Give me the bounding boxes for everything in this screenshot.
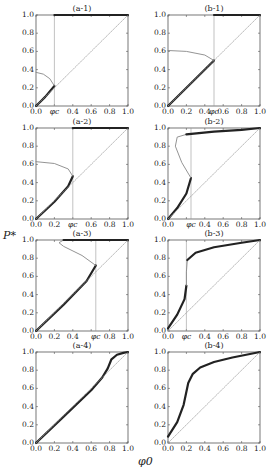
series-diagonal <box>36 15 128 106</box>
y-tick-label: 0.4 <box>150 403 166 411</box>
x-tick-label: 0.0 <box>28 333 44 341</box>
plot-area <box>36 240 128 331</box>
chart-panel-a-1: (a-1)0.00.20.40.60.81.00.0φc0.40.60.81.0 <box>36 15 128 106</box>
x-tick-label: φc <box>46 108 62 116</box>
y-tick-label: 0.6 <box>150 384 166 392</box>
y-tick-label: 1.0 <box>18 124 34 132</box>
series-stable-lower <box>36 86 54 106</box>
chart-panel-a-2: (a-2)0.00.20.40.60.81.00.00.2φc0.60.81.0 <box>36 128 128 219</box>
y-tick-label: 1.0 <box>18 348 34 356</box>
series-diagonal <box>168 128 260 219</box>
x-tick-label: 1.0 <box>252 333 268 341</box>
y-tick-label: 0.4 <box>150 179 166 187</box>
x-tick-label: 1.0 <box>120 445 136 453</box>
panel-title: (b-4) <box>168 341 260 351</box>
x-tick-label: 0.4 <box>65 445 81 453</box>
plot-area <box>168 352 260 443</box>
y-tick-label: 0.2 <box>18 84 34 92</box>
x-tick-label: 1.0 <box>252 108 268 116</box>
y-tick-label: 1.0 <box>150 11 166 19</box>
x-tick-label: 0.4 <box>197 221 213 229</box>
x-tick-label: 0.8 <box>234 333 250 341</box>
y-tick-label: 0.2 <box>18 309 34 317</box>
x-tick-label: 0.0 <box>28 108 44 116</box>
chart-panel-b-1: (b-1)0.00.20.40.60.81.00.00.20.4φc0.60.8… <box>168 15 260 106</box>
y-tick-label: 1.0 <box>18 11 34 19</box>
y-tick-label: 0.8 <box>150 254 166 262</box>
plot-area <box>168 128 260 219</box>
chart-panel-b-2: (b-2)0.00.20.40.60.81.00.0φc0.40.60.81.0 <box>168 128 260 219</box>
y-tick-label: 0.8 <box>18 254 34 262</box>
panel-title: (a-3) <box>36 229 128 239</box>
series-unstable <box>36 162 73 177</box>
y-tick-label: 0.2 <box>150 84 166 92</box>
panel-title: (a-4) <box>36 341 128 351</box>
plot-area <box>36 15 128 106</box>
x-tick-label: 0.8 <box>234 221 250 229</box>
series-diagonal <box>168 352 260 443</box>
chart-panel-a-4: (a-4)0.00.20.40.60.81.00.00.20.40.60.81.… <box>36 352 128 443</box>
series-stable-lower <box>36 265 96 331</box>
x-tick-label: 0.2 <box>46 221 62 229</box>
x-tick-label: 0.0 <box>160 221 176 229</box>
y-tick-label: 0.8 <box>150 142 166 150</box>
series-unstable <box>175 134 191 178</box>
plot-area <box>168 240 260 331</box>
x-tick-label: 0.4 <box>197 445 213 453</box>
y-tick-label: 0.4 <box>150 291 166 299</box>
x-tick-label: 0.8 <box>234 108 250 116</box>
plot-area <box>36 352 128 443</box>
x-tick-label: φc <box>178 333 194 341</box>
x-tick-label: 0.6 <box>83 445 99 453</box>
series-diagonal <box>36 128 128 219</box>
y-tick-label: 0.4 <box>150 66 166 74</box>
y-tick-label: 0.4 <box>18 66 34 74</box>
y-tick-label: 0.8 <box>150 366 166 374</box>
y-tick-label: 1.0 <box>150 236 166 244</box>
x-tick-label: 1.0 <box>252 445 268 453</box>
y-tick-label: 0.4 <box>18 179 34 187</box>
y-tick-label: 0.8 <box>18 142 34 150</box>
series-unstable <box>59 240 96 265</box>
y-tick-label: 1.0 <box>18 236 34 244</box>
x-tick-label: 0.0 <box>160 445 176 453</box>
y-tick-label: 0.8 <box>18 366 34 374</box>
x-tick-label: 0.6 <box>215 108 231 116</box>
y-tick-label: 0.6 <box>18 384 34 392</box>
y-tick-label: 0.2 <box>150 421 166 429</box>
x-tick-label: 0.6 <box>215 445 231 453</box>
panel-title: (a-1) <box>36 4 128 14</box>
plot-area <box>36 128 128 219</box>
y-tick-label: 0.8 <box>150 29 166 37</box>
x-tick-label: 0.2 <box>178 108 194 116</box>
y-tick-label: 0.6 <box>18 160 34 168</box>
panel-title: (b-1) <box>168 4 260 14</box>
x-tick-label: 0.0 <box>160 333 176 341</box>
y-tick-label: 0.6 <box>150 160 166 168</box>
y-tick-label: 0.4 <box>18 291 34 299</box>
chart-panel-b-4: (b-4)0.00.20.40.60.81.00.00.20.40.60.81.… <box>168 352 260 443</box>
series-stable-lower <box>36 176 73 219</box>
x-tick-label: 0.2 <box>46 333 62 341</box>
y-tick-label: 0.6 <box>150 47 166 55</box>
x-tick-label: 0.6 <box>83 108 99 116</box>
series-solution <box>168 352 260 437</box>
x-tick-label: 1.0 <box>120 333 136 341</box>
series-diagonal <box>168 240 260 331</box>
x-tick-label: 1.0 <box>120 221 136 229</box>
x-tick-label: 0.0 <box>28 445 44 453</box>
y-tick-label: 0.2 <box>150 309 166 317</box>
x-tick-label: 0.6 <box>215 221 231 229</box>
x-tick-label: φc <box>65 221 81 229</box>
panel-title: (a-2) <box>36 117 128 127</box>
x-axis-label: φ0 <box>138 455 153 468</box>
y-tick-label: 0.2 <box>18 421 34 429</box>
x-tick-label: 0.4 <box>197 333 213 341</box>
y-tick-label: 0.6 <box>18 272 34 280</box>
panel-title: (b-2) <box>168 117 260 127</box>
y-tick-label: 0.6 <box>18 47 34 55</box>
x-tick-label: 1.0 <box>252 221 268 229</box>
y-tick-label: 1.0 <box>150 124 166 132</box>
series-diagonal <box>36 240 128 331</box>
y-tick-label: 0.2 <box>18 197 34 205</box>
